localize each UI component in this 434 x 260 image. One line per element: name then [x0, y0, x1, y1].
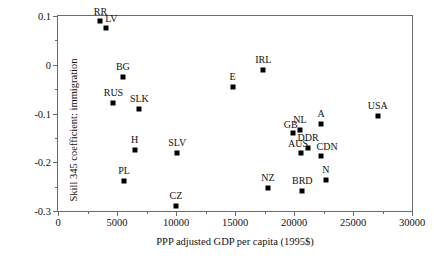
x-axis-tick: [176, 211, 177, 216]
data-point: [290, 130, 295, 135]
y-axis-tick: [53, 16, 58, 17]
x-axis-minor-tick: [324, 211, 325, 214]
x-axis-minor-tick: [147, 211, 148, 214]
x-axis-minor-tick: [265, 211, 266, 214]
data-point-label: RUS: [104, 88, 123, 98]
data-point-label: E: [230, 72, 236, 82]
data-point-label: A: [318, 109, 325, 119]
data-point: [111, 100, 116, 105]
x-axis-tick-label: 10000: [163, 217, 189, 228]
y-axis-tick-label: -0.2: [34, 157, 51, 168]
data-point: [319, 122, 324, 127]
data-point-label: GB: [284, 120, 298, 130]
x-axis-tick-label: 30000: [399, 217, 425, 228]
x-axis-tick: [235, 211, 236, 216]
data-point-label: USA: [368, 101, 388, 111]
y-axis-tick-label: 0.1: [38, 11, 51, 22]
data-point-label: H: [131, 135, 138, 145]
x-axis-title: PPP adjusted GDP per capita (1995$): [57, 236, 413, 247]
data-point: [323, 178, 328, 183]
data-point: [300, 188, 305, 193]
y-axis-tick: [53, 114, 58, 115]
data-point-label: NZ: [261, 173, 274, 183]
data-point: [137, 107, 142, 112]
x-axis-tick: [294, 211, 295, 216]
data-point: [230, 84, 235, 89]
data-point: [174, 204, 179, 209]
x-axis-tick: [58, 211, 59, 216]
data-point: [122, 178, 127, 183]
data-point: [104, 26, 109, 31]
y-axis-minor-tick: [55, 138, 58, 139]
x-axis-minor-tick: [88, 211, 89, 214]
data-point: [319, 153, 324, 158]
x-axis-tick: [353, 211, 354, 216]
y-axis-tick-label: -0.1: [34, 108, 51, 119]
data-point: [375, 113, 380, 118]
x-axis-minor-tick: [383, 211, 384, 214]
x-axis-tick-label: 0: [55, 217, 60, 228]
y-axis-tick-label: 0: [46, 59, 51, 70]
x-axis-minor-tick: [206, 211, 207, 214]
data-point-label: N: [322, 165, 329, 175]
data-point: [120, 74, 125, 79]
data-point-label: CZ: [170, 191, 183, 201]
x-axis-tick-label: 25000: [340, 217, 366, 228]
data-point-label: BG: [116, 62, 130, 72]
data-point-label: PL: [118, 166, 130, 176]
data-point-label: CDN: [317, 142, 338, 152]
x-axis-tick-label: 20000: [281, 217, 307, 228]
x-axis-tick: [412, 211, 413, 216]
y-axis-minor-tick: [55, 40, 58, 41]
data-point-label: SLV: [168, 138, 186, 148]
y-axis-tick: [53, 162, 58, 163]
data-point-label: AUS: [288, 139, 308, 149]
y-axis-minor-tick: [55, 187, 58, 188]
plot-area: 0.10-0.1-0.2-0.3050001000015000200002500…: [57, 15, 413, 212]
data-point: [132, 148, 137, 153]
x-axis-tick-label: 15000: [222, 217, 248, 228]
data-point: [98, 19, 103, 24]
y-axis-tick-label: -0.3: [34, 206, 51, 217]
x-axis-tick: [117, 211, 118, 216]
y-axis-minor-tick: [55, 89, 58, 90]
data-point-label: SLK: [130, 94, 149, 104]
data-point: [266, 186, 271, 191]
data-point-label: IRL: [255, 55, 271, 65]
data-point-label: LV: [105, 14, 117, 24]
data-point-label: BRD: [292, 176, 313, 186]
data-point: [299, 150, 304, 155]
y-axis-tick: [53, 65, 58, 66]
x-axis-tick-label: 5000: [107, 217, 128, 228]
data-point: [175, 150, 180, 155]
scatter-chart-figure: Skill 345 coefficient: immigration PPP a…: [0, 0, 434, 260]
data-point: [261, 67, 266, 72]
